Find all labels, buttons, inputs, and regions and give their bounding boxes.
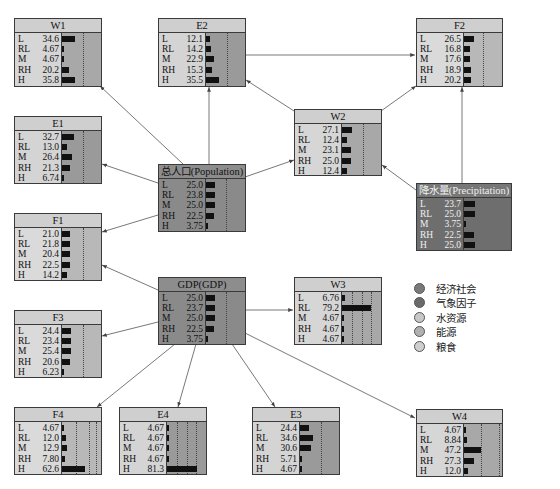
state-row[interactable]: RH27.3 xyxy=(417,456,463,466)
node-f1[interactable]: F1L21.0RL21.8M20.4RH22.5H14.2 xyxy=(14,213,102,281)
state-row[interactable]: RH20.2 xyxy=(15,65,61,75)
node-precipitation[interactable]: 降水量(Precipitation)L23.7RL25.0M3.75RH22.5… xyxy=(416,183,512,251)
state-row[interactable]: RH21.3 xyxy=(15,163,61,173)
state-row[interactable]: RL23.7 xyxy=(159,303,205,313)
state-row[interactable]: H25.0 xyxy=(417,240,463,250)
state-row[interactable]: H35.5 xyxy=(159,75,205,85)
node-f4[interactable]: F4L4.67RL12.0M12.9RH7.80H62.6 xyxy=(14,407,102,475)
probability-bar xyxy=(464,67,471,73)
state-row[interactable]: RL25.0 xyxy=(417,209,463,219)
state-row[interactable]: M17.6 xyxy=(417,54,463,64)
state-row[interactable]: RH25.0 xyxy=(295,156,341,166)
node-title: W4 xyxy=(417,410,502,424)
state-row[interactable]: H3.75 xyxy=(159,221,205,231)
state-table: L25.0RL23.8M25.0RH22.5H3.75 xyxy=(159,179,206,231)
state-row[interactable]: RL12.0 xyxy=(15,433,61,443)
node-w1[interactable]: W1L34.6RL4.67M4.67RH20.2H35.8 xyxy=(14,18,102,87)
state-row[interactable]: M47.2 xyxy=(417,445,463,455)
state-row[interactable]: M25.0 xyxy=(159,200,205,210)
state-row[interactable]: L12.1 xyxy=(159,34,205,44)
state-row[interactable]: RH22.5 xyxy=(159,211,205,221)
state-row[interactable]: L4.67 xyxy=(15,423,61,433)
node-population[interactable]: 总人口(Population)L25.0RL23.8M25.0RH22.5H3.… xyxy=(158,164,246,232)
state-row[interactable]: L32.7 xyxy=(15,132,61,142)
node-title: W1 xyxy=(15,19,101,33)
state-row[interactable]: L27.1 xyxy=(295,125,341,135)
state-row[interactable]: RL13.0 xyxy=(15,142,61,152)
state-row[interactable]: L26.5 xyxy=(417,34,463,44)
state-row[interactable]: RL12.4 xyxy=(295,135,341,145)
state-row[interactable]: RH15.3 xyxy=(159,65,205,75)
state-row[interactable]: RH20.6 xyxy=(15,357,61,367)
node-gdp[interactable]: GDP(GDP)L25.0RL23.7M25.0RH22.5H3.75 xyxy=(158,277,246,345)
state-row[interactable]: H4.67 xyxy=(295,334,341,344)
state-row[interactable]: M26.4 xyxy=(15,152,61,162)
state-row[interactable]: H62.6 xyxy=(15,464,61,474)
state-row[interactable]: RH4.67 xyxy=(295,324,341,334)
state-probability: 25.0 xyxy=(314,156,341,166)
state-row[interactable]: M25.0 xyxy=(159,313,205,323)
state-row[interactable]: M23.1 xyxy=(295,145,341,155)
state-label: M xyxy=(417,54,436,64)
state-row[interactable]: M20.4 xyxy=(15,249,61,259)
node-w4[interactable]: W4L4.67RL8.84M47.2RH27.3H12.0 xyxy=(416,409,503,477)
node-w2[interactable]: W2L27.1RL12.4M23.1RH25.0H12.4 xyxy=(294,109,382,176)
node-e2[interactable]: E2L12.1RL14.2M22.9RH15.3H35.5 xyxy=(158,18,246,87)
state-row[interactable]: RL34.6 xyxy=(253,433,299,443)
state-row[interactable]: RH22.5 xyxy=(159,324,205,334)
state-row[interactable]: H3.75 xyxy=(159,334,205,344)
node-e4[interactable]: E4L4.67RL4.67M4.67RH4.67H81.3 xyxy=(119,407,207,475)
state-row[interactable]: H81.3 xyxy=(120,464,166,474)
state-row[interactable]: H12.4 xyxy=(295,166,341,176)
state-label: L xyxy=(417,199,436,209)
state-row[interactable]: L34.6 xyxy=(15,34,61,44)
state-row[interactable]: M22.9 xyxy=(159,54,205,64)
state-row[interactable]: H20.2 xyxy=(417,75,463,85)
state-row[interactable]: RH22.5 xyxy=(15,260,61,270)
node-f3[interactable]: F3L24.4RL23.4M25.4RH20.6H6.23 xyxy=(14,310,102,378)
state-row[interactable]: RL79.2 xyxy=(295,303,341,313)
state-row[interactable]: M12.9 xyxy=(15,443,61,453)
state-row[interactable]: M30.6 xyxy=(253,443,299,453)
state-row[interactable]: H35.8 xyxy=(15,75,61,85)
node-f2[interactable]: F2L26.5RL16.8M17.6RH18.9H20.2 xyxy=(416,18,503,87)
state-row[interactable]: RL23.4 xyxy=(15,336,61,346)
node-title: 降水量(Precipitation) xyxy=(417,184,511,198)
state-row[interactable]: RL23.8 xyxy=(159,190,205,200)
state-row[interactable]: H6.23 xyxy=(15,367,61,377)
state-row[interactable]: M4.67 xyxy=(15,54,61,64)
state-row[interactable]: M3.75 xyxy=(417,219,463,229)
state-row[interactable]: RH7.80 xyxy=(15,454,61,464)
state-row[interactable]: L24.4 xyxy=(15,326,61,336)
probability-bar xyxy=(206,336,208,342)
state-row[interactable]: L4.67 xyxy=(120,423,166,433)
state-row[interactable]: L21.0 xyxy=(15,229,61,239)
node-w3[interactable]: W3L6.76RL79.2M4.67RH4.67H4.67 xyxy=(294,277,382,345)
state-row[interactable]: L25.0 xyxy=(159,293,205,303)
node-e3[interactable]: E3L24.4RL34.6M30.6RH5.71H4.67 xyxy=(252,407,340,475)
state-row[interactable]: L24.4 xyxy=(253,423,299,433)
state-row[interactable]: RL14.2 xyxy=(159,44,205,54)
state-row[interactable]: H12.0 xyxy=(417,466,463,476)
state-row[interactable]: RH22.5 xyxy=(417,230,463,240)
state-row[interactable]: RL21.8 xyxy=(15,239,61,249)
state-row[interactable]: M4.67 xyxy=(295,313,341,323)
state-row[interactable]: L23.7 xyxy=(417,199,463,209)
state-row[interactable]: RH18.9 xyxy=(417,65,463,75)
state-row[interactable]: H6.74 xyxy=(15,173,61,183)
state-row[interactable]: L25.0 xyxy=(159,180,205,190)
state-row[interactable]: H14.2 xyxy=(15,270,61,280)
state-row[interactable]: RH4.67 xyxy=(120,454,166,464)
state-row[interactable]: RL8.84 xyxy=(417,435,463,445)
state-row[interactable]: RH5.71 xyxy=(253,454,299,464)
state-row[interactable]: RL4.67 xyxy=(15,44,61,54)
state-row[interactable]: M25.4 xyxy=(15,346,61,356)
state-label: RL xyxy=(417,209,436,219)
state-row[interactable]: RL16.8 xyxy=(417,44,463,54)
state-row[interactable]: RL4.67 xyxy=(120,433,166,443)
state-row[interactable]: H4.67 xyxy=(253,464,299,474)
state-row[interactable]: L4.67 xyxy=(417,425,463,435)
node-e1[interactable]: E1L32.7RL13.0M26.4RH21.3H6.74 xyxy=(14,116,102,184)
state-row[interactable]: L6.76 xyxy=(295,293,341,303)
state-row[interactable]: M4.67 xyxy=(120,443,166,453)
